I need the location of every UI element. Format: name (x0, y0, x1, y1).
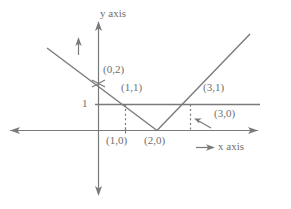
graph-canvas (0, 0, 291, 209)
graph-figure: y axis x axis 1 (0,2) (1,1) (3,1) (3,0) … (0, 0, 291, 209)
y-axis (95, 21, 102, 196)
point-label-3-1: (3,1) (203, 82, 224, 93)
point-label-0-2: (0,2) (103, 64, 124, 75)
point-label-1-1: (1,1) (121, 82, 142, 93)
y-axis-label: y axis (100, 8, 126, 19)
direction-right-arrow-icon (196, 144, 215, 150)
direction-up-arrow-icon (75, 37, 81, 55)
x-axis-label: x axis (218, 141, 244, 152)
point-label-3-0: (3,0) (214, 108, 235, 119)
y-tick-label-1: 1 (82, 98, 88, 109)
point-label-2-0: (2,0) (144, 135, 165, 146)
arrow-pointer-icon (194, 118, 211, 128)
x-axis (10, 127, 258, 134)
point-label-1-0: (1,0) (106, 135, 127, 146)
